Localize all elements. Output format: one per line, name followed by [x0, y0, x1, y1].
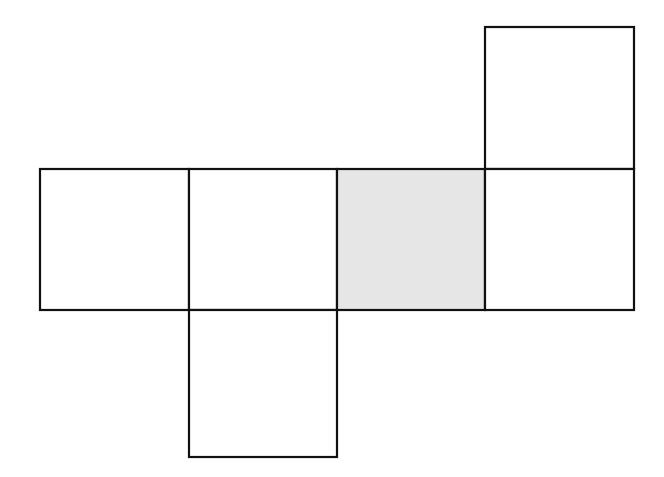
square-row-1: [40, 169, 189, 310]
shaded-square: [337, 169, 485, 310]
square-top: [485, 27, 634, 169]
square-row-2: [189, 169, 337, 310]
square-bottom: [189, 310, 337, 457]
cube-net-diagram: [0, 0, 664, 477]
square-row-4: [485, 169, 634, 310]
